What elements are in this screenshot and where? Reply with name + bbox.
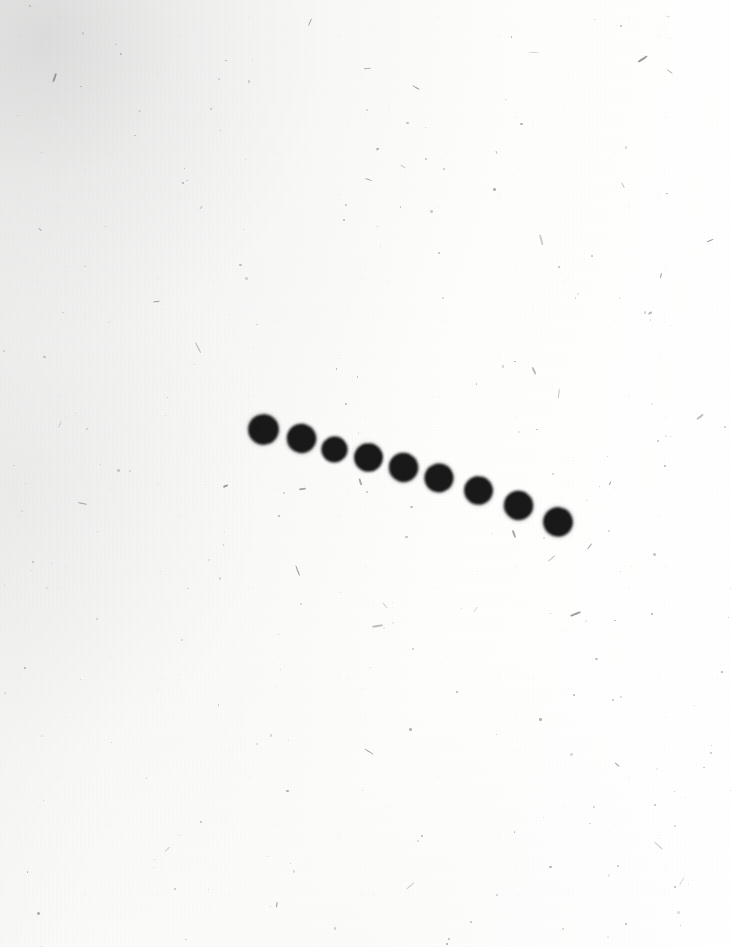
exposure-spot (248, 414, 279, 445)
scanned-plate-canvas: Scanned photographic plate showing a seq… (0, 0, 731, 947)
exposure-spot (422, 461, 456, 495)
exposure-spot (542, 506, 575, 539)
exposure-spot (385, 449, 421, 485)
exposure-spot (464, 476, 493, 505)
exposure-spot (500, 487, 536, 523)
exposure-spot (284, 421, 318, 455)
exposure-spot (356, 445, 381, 470)
exposure-spot (318, 433, 349, 464)
